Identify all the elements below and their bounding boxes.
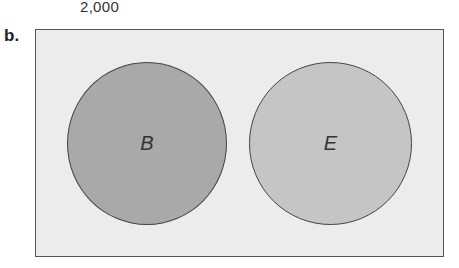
part-label: b.: [4, 26, 19, 46]
venn-universe-rectangle: B E: [35, 29, 444, 257]
venn-circle-e: E: [249, 62, 412, 225]
venn-circle-b: B: [67, 62, 227, 225]
circle-b-label: B: [140, 132, 153, 155]
cropped-number-label: 2,000: [80, 0, 119, 15]
circle-e-label: E: [324, 132, 337, 155]
